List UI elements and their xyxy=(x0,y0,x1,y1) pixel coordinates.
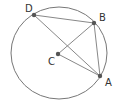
diagram-canvas: D B C A xyxy=(0,0,122,101)
label-C: C xyxy=(48,56,55,67)
segment-DA xyxy=(34,15,100,76)
segments xyxy=(34,15,100,76)
segment-CA xyxy=(58,54,100,76)
segment-DB xyxy=(34,15,94,23)
segment-CB xyxy=(58,23,94,54)
point-C xyxy=(56,52,60,56)
segment-BA xyxy=(94,23,100,76)
circle-diagram: D B C A xyxy=(0,0,122,101)
label-B: B xyxy=(99,12,106,23)
label-A: A xyxy=(105,77,112,88)
point-B xyxy=(92,21,96,25)
point-A xyxy=(98,74,102,78)
label-D: D xyxy=(25,3,33,14)
